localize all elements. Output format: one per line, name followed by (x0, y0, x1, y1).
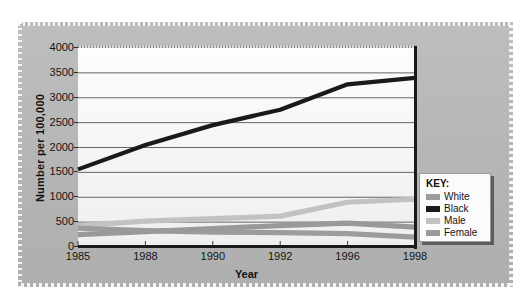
y-tick-label: 3500 (30, 66, 74, 78)
y-tick-label: 1500 (30, 165, 74, 177)
y-axis-ticks: 05001000150020002500300035004000 (30, 48, 74, 247)
legend-label: Female (444, 227, 477, 239)
legend-item-female: Female (426, 227, 485, 239)
legend-item-black: Black (426, 203, 485, 215)
legend-swatch-icon (426, 218, 440, 224)
legend-swatch-icon (426, 194, 440, 200)
y-tick-3000: 3000 (30, 91, 74, 105)
chart-page: Number per 100,000 050010001500200025003… (0, 0, 531, 307)
y-tick-label: 500 (30, 215, 74, 227)
legend-title: KEY: (426, 178, 485, 190)
y-tick-2000: 2000 (30, 141, 74, 155)
x-tick-label-1996: 1996 (335, 250, 359, 262)
series-line-black (78, 78, 415, 170)
y-tick-label: 4000 (30, 41, 74, 53)
y-tick-4000: 4000 (30, 41, 74, 55)
legend-items: WhiteBlackMaleFemale (426, 191, 485, 239)
legend-swatch-icon (426, 206, 440, 212)
x-axis-line (78, 245, 417, 248)
legend-item-white: White (426, 191, 485, 203)
legend-item-male: Male (426, 215, 485, 227)
x-tick-label-1992: 1992 (268, 250, 292, 262)
y-tick-500: 500 (30, 215, 74, 229)
x-axis-ticks: 198519881990199219961998 (78, 250, 418, 266)
x-tick-label-1998: 1998 (403, 250, 427, 262)
y-tick-1500: 1500 (30, 165, 74, 179)
y-tick-label: 3000 (30, 91, 74, 103)
chart-canvas (78, 48, 415, 247)
x-axis-title: Year (78, 268, 415, 280)
plot-area (78, 48, 415, 247)
legend-label: Black (444, 203, 468, 215)
y-tick-label: 2000 (30, 141, 74, 153)
legend-box: KEY: WhiteBlackMaleFemale (419, 173, 491, 242)
x-tick-label-1985: 1985 (66, 250, 90, 262)
y-tick-label: 2500 (30, 116, 74, 128)
legend-swatch-icon (426, 230, 440, 236)
legend-label: Male (444, 215, 466, 227)
y-tick-2500: 2500 (30, 116, 74, 130)
y-tick-label: 1000 (30, 190, 74, 202)
legend-label: White (444, 191, 470, 203)
x-tick-label-1990: 1990 (201, 250, 225, 262)
y-tick-1000: 1000 (30, 190, 74, 204)
x-tick-label-1988: 1988 (133, 250, 157, 262)
y-tick-3500: 3500 (30, 66, 74, 80)
plot-right-axis (414, 46, 417, 249)
